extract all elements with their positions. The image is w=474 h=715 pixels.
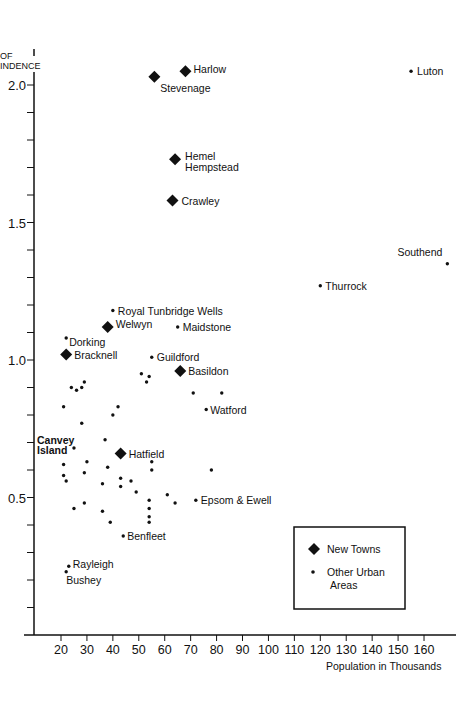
y-axis-label-line2: INDENCE xyxy=(0,61,41,71)
new-town-marker xyxy=(169,153,181,165)
new-town-marker xyxy=(179,65,191,77)
urban-area-marker xyxy=(150,460,153,463)
y-tick-label: 0.5 xyxy=(8,491,26,506)
x-tick-label: 50 xyxy=(132,643,146,657)
urban-area-marker xyxy=(116,405,119,408)
urban-area-marker xyxy=(70,386,73,389)
x-tick-label: 130 xyxy=(336,643,357,657)
point-label: Dorking xyxy=(69,336,105,348)
new-town-marker xyxy=(60,349,72,361)
x-tick-label: 30 xyxy=(80,643,94,657)
legend-other-line1: Other Urban xyxy=(327,566,385,578)
x-tick-label: 70 xyxy=(184,643,198,657)
point-label: Southend xyxy=(397,246,442,258)
urban-area-marker xyxy=(194,499,197,502)
point-label: Watford xyxy=(210,404,247,416)
point-label: Luton xyxy=(417,65,443,77)
urban-area-marker xyxy=(80,422,83,425)
y-ticks: 0.51.01.52.0 xyxy=(8,78,34,608)
point-label: Maidstone xyxy=(183,321,232,333)
urban-area-marker xyxy=(147,507,150,510)
urban-area-marker xyxy=(64,479,67,482)
urban-area-marker xyxy=(147,521,150,524)
urban-area-marker xyxy=(83,501,86,504)
y-axis-label-line1: OF xyxy=(0,51,13,61)
urban-area-marker xyxy=(80,386,83,389)
urban-area-marker xyxy=(64,336,67,339)
urban-area-marker xyxy=(192,391,195,394)
urban-area-marker xyxy=(134,490,137,493)
urban-area-marker xyxy=(106,466,109,469)
point-label: Crawley xyxy=(181,195,220,207)
urban-area-marker xyxy=(62,463,65,466)
x-tick-label: 110 xyxy=(284,643,304,657)
point-labels: HarlowStevenageHemelHempsteadCrawleyWelw… xyxy=(37,63,443,586)
urban-area-marker xyxy=(409,70,412,73)
urban-area-marker xyxy=(83,471,86,474)
new-town-marker xyxy=(115,448,127,460)
legend-other-line2: Areas xyxy=(330,579,357,591)
y-tick-label: 1.0 xyxy=(8,353,26,368)
point-label: Stevenage xyxy=(160,82,210,94)
urban-area-marker xyxy=(220,391,223,394)
point-label: Basildon xyxy=(188,365,228,377)
urban-area-marker xyxy=(129,479,132,482)
urban-area-marker xyxy=(147,499,150,502)
urban-area-marker xyxy=(176,325,179,328)
urban-area-marker xyxy=(147,515,150,518)
urban-area-marker xyxy=(101,482,104,485)
urban-area-marker xyxy=(67,565,70,568)
new-town-marker xyxy=(166,195,178,207)
point-label: Island xyxy=(37,444,67,456)
urban-area-marker xyxy=(446,262,449,265)
legend-new-towns: New Towns xyxy=(327,543,381,555)
dot-marker-icon xyxy=(311,570,315,574)
urban-area-marker xyxy=(111,309,114,312)
urban-area-marker xyxy=(319,284,322,287)
urban-area-marker xyxy=(75,389,78,392)
urban-area-marker xyxy=(210,468,213,471)
y-tick-label: 2.0 xyxy=(8,78,26,93)
urban-area-marker xyxy=(150,356,153,359)
point-label: Benfleet xyxy=(127,530,166,542)
new-town-marker xyxy=(148,71,160,83)
x-tick-label: 100 xyxy=(258,643,279,657)
x-tick-label: 140 xyxy=(362,643,383,657)
urban-area-marker xyxy=(145,380,148,383)
x-axis-title: Population in Thousands xyxy=(326,660,441,672)
x-tick-label: 150 xyxy=(388,643,409,657)
x-tick-label: 120 xyxy=(310,643,331,657)
point-label: Bracknell xyxy=(74,349,117,361)
y-tick-label: 1.5 xyxy=(8,216,26,231)
urban-area-marker xyxy=(122,534,125,537)
point-label: Welwyn xyxy=(116,318,153,330)
urban-area-marker xyxy=(62,405,65,408)
urban-area-marker xyxy=(150,468,153,471)
point-label: Hempstead xyxy=(185,161,239,173)
urban-area-marker xyxy=(72,446,75,449)
point-label: Bushey xyxy=(66,574,102,586)
urban-area-marker xyxy=(147,375,150,378)
urban-area-marker xyxy=(83,380,86,383)
point-label: Thurrock xyxy=(325,280,367,292)
urban-area-marker xyxy=(119,485,122,488)
urban-area-marker xyxy=(173,501,176,504)
urban-area-marker xyxy=(109,521,112,524)
point-label: Epsom & Ewell xyxy=(201,494,272,506)
urban-area-marker xyxy=(62,474,65,477)
urban-area-marker xyxy=(140,372,143,375)
urban-area-marker xyxy=(72,507,75,510)
urban-area-marker xyxy=(119,477,122,480)
urban-area-marker xyxy=(85,460,88,463)
x-ticks: 2030405060708090100110120130140150160 xyxy=(54,635,434,657)
urban-area-marker xyxy=(166,493,169,496)
legend: New Towns Other Urban Areas xyxy=(294,527,405,609)
x-tick-label: 160 xyxy=(414,643,435,657)
new-town-marker xyxy=(174,365,186,377)
x-tick-label: 80 xyxy=(210,643,224,657)
x-tick-label: 40 xyxy=(106,643,120,657)
scatter-chart: OF INDENCE 0.51.01.52.0 2030405060708090… xyxy=(0,0,474,715)
urban-area-marker xyxy=(103,438,106,441)
urban-area-marker xyxy=(101,510,104,513)
urban-area-marker xyxy=(205,408,208,411)
